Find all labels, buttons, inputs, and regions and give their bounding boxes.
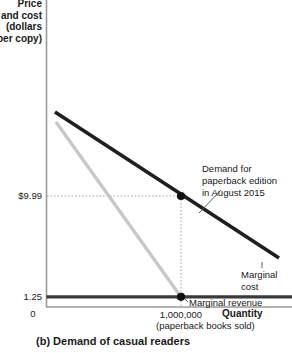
marginal-revenue-label: Marginal revenue xyxy=(189,297,292,309)
y-axis-title: Price and cost (dollars per copy) xyxy=(0,0,42,44)
origin-label: 0 xyxy=(26,308,40,320)
marginal-revenue-line xyxy=(56,122,181,297)
figure-caption: (b) Demand of casual readers xyxy=(36,336,276,348)
x-axis-tick-label-quantity: 1,000,000 xyxy=(147,309,215,321)
chart-figure: Price and cost (dollars per copy) $9.99 … xyxy=(0,0,292,353)
y-axis-tick-label-price: $9.99 xyxy=(4,190,42,202)
demand-curve-annotation: Demand for paperback edition in August 2… xyxy=(202,163,292,199)
data-point-mr-mc xyxy=(177,293,185,301)
x-axis-subtitle: (paperback books sold) xyxy=(156,320,292,332)
y-axis-tick-label-cost: 1.25 xyxy=(4,291,42,303)
x-axis-title: Quantity xyxy=(222,308,288,320)
marginal-cost-label: Marginal cost xyxy=(241,269,291,292)
data-point-price xyxy=(177,192,185,200)
